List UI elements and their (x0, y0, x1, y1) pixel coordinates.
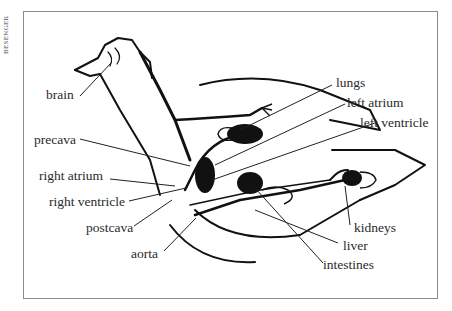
label-kidneys: kidneys (354, 221, 396, 235)
label-lungs: lungs (336, 76, 365, 90)
label-left-atrium: left atrium (347, 96, 404, 110)
bird-circulatory-diagram (0, 0, 452, 311)
label-brain: brain (46, 88, 74, 102)
label-aorta: aorta (131, 247, 158, 261)
heart-shape (195, 157, 215, 193)
liver-shape (237, 172, 263, 194)
label-postcava: postcava (86, 221, 133, 235)
bird-neck-outline (100, 74, 160, 195)
kidney-shape (342, 170, 362, 186)
label-precava: precava (34, 133, 76, 147)
bird-head-outline (75, 38, 152, 78)
label-left-ventricle: left ventricle (360, 116, 429, 130)
label-right-ventricle: right ventricle (49, 195, 125, 209)
label-liver: liver (343, 239, 368, 253)
label-intestines: intestines (323, 258, 374, 272)
label-right-atrium: right atrium (39, 169, 103, 183)
